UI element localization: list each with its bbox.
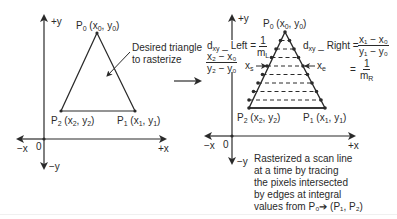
xs-label: xs <box>245 60 254 74</box>
left-p0-label: P0 (x0, y0) <box>76 20 119 34</box>
left-origin-label: 0 <box>36 141 42 152</box>
left-p2-label: P2 (x2, y2) <box>51 115 94 129</box>
right-neg-y-label: −y <box>237 156 248 167</box>
right-p0-label: P0 (x0, y0) <box>263 18 306 32</box>
left-p1-label: P1 (x1, y1) <box>117 115 160 129</box>
bottom-divider <box>0 214 397 215</box>
formula-right-eq: = <box>350 64 356 75</box>
right-caption: Rasterized a scan line at a time by trac… <box>254 153 363 213</box>
formula-left-frac1: 1 mL <box>257 35 269 61</box>
right-pos-x-label: +x <box>348 140 359 151</box>
formula-right-frac2: 1 mR <box>360 58 373 84</box>
right-p2-label: P2 (x2, y2) <box>237 112 280 126</box>
left-neg-x-label: −x <box>17 143 28 154</box>
right-origin-dot <box>230 134 233 137</box>
left-pos-y-label: +y <box>51 16 62 27</box>
left-p2-dot <box>59 109 62 112</box>
formula-right-label: dxy _ Right = <box>303 40 359 54</box>
xe-label: xe <box>317 60 326 74</box>
right-origin-label: 0 <box>223 139 229 150</box>
left-pos-x-label: +x <box>158 143 169 154</box>
right-neg-x-label: −x <box>204 140 215 151</box>
left-p1-dot <box>133 109 136 112</box>
left-neg-y-label: −y <box>49 161 60 172</box>
right-p1-label: P1 (x1, y1) <box>303 112 346 126</box>
left-triangle <box>61 33 135 111</box>
right-pos-y-label: +y <box>238 13 249 24</box>
formula-right-frac1: x₁ − x₀ y₁ − y₀ <box>358 34 389 57</box>
left-origin-dot <box>42 137 45 140</box>
left-annotation: Desired triangle to rasterize <box>132 42 202 66</box>
formula-left-frac2: x₂ − x₀ y₂ − y₀ <box>206 51 237 74</box>
annotation-pointer-arrow <box>107 52 130 76</box>
